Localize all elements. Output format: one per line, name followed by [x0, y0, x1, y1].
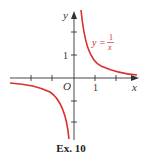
hyperbola-branch-negative: [10, 83, 69, 139]
equation-numerator: 1: [109, 33, 113, 42]
equation-lhs: y =: [91, 37, 106, 48]
y-axis-label: y: [62, 9, 68, 21]
equation-denominator: x: [107, 43, 112, 52]
origin-label: O: [63, 80, 71, 92]
figure-caption: Ex. 10: [0, 142, 142, 154]
x-axis-label: x: [131, 81, 137, 93]
x-tick-label-1: 1: [93, 82, 98, 93]
hyperbola-graph: y x O 1 1 y = 1 x: [0, 0, 142, 158]
equation-label: y = 1 x: [91, 33, 114, 52]
y-axis-arrow-icon: [71, 11, 77, 19]
y-tick-label-1: 1: [63, 50, 68, 61]
